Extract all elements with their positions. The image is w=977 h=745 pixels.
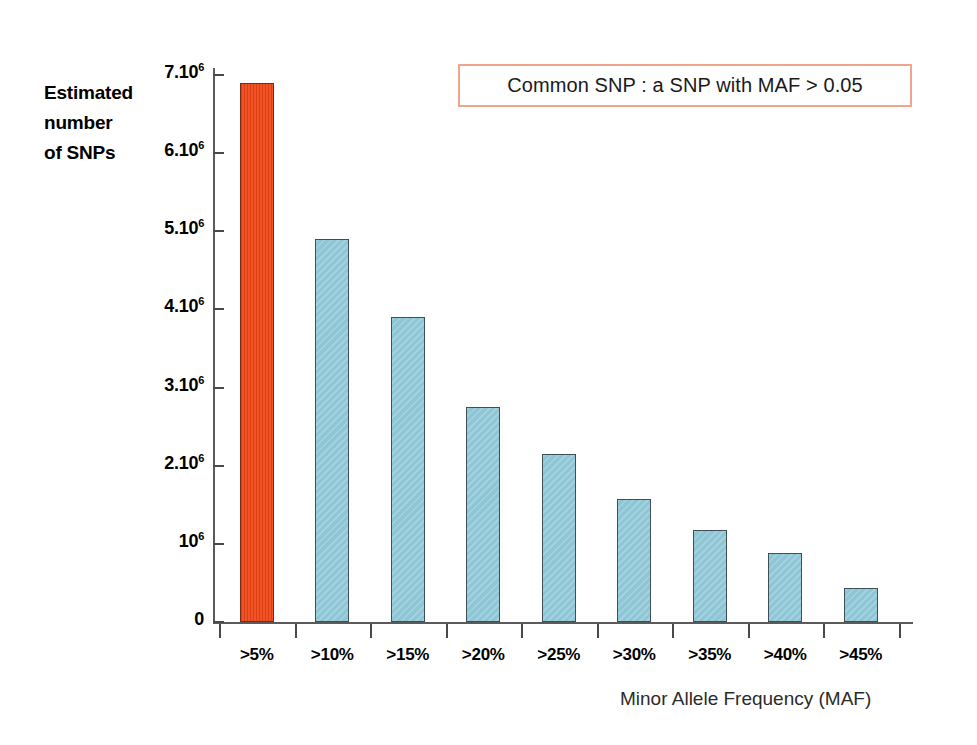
y-tick-3: 3.106 [213,387,224,389]
x-tick-0 [219,624,221,638]
y-tick-2: 2.106 [213,465,224,467]
y-axis-title: Estimated number of SNPs [44,78,174,168]
x-tick-8 [823,624,825,638]
y-tick-5: 5.106 [213,230,224,232]
y-tick-1: 106 [213,543,224,545]
bar-35 [693,530,727,622]
bar-10 [315,239,349,622]
x-tick-label-6: >35% [670,645,750,665]
bar-30 [617,499,651,622]
x-tick-1 [295,624,297,638]
x-tick-6 [672,624,674,638]
bar-20 [466,407,500,622]
x-tick-end [899,624,901,638]
y-axis-title-line-3: of SNPs [44,138,174,168]
y-tick-4: 4.106 [213,308,224,310]
y-tick-6: 6.106 [213,152,224,154]
x-tick-2 [370,624,372,638]
y-tick-label-2: 2.106 [164,453,204,474]
x-tick-label-4: >25% [519,645,599,665]
x-tick-label-2: >15% [368,645,448,665]
x-axis-title: Minor Allele Frequency (MAF) [620,688,871,710]
x-tick-label-8: >45% [821,645,901,665]
annotation-text: Common SNP : a SNP with MAF > 0.05 [507,74,863,97]
y-tick-label-7: 7.106 [164,62,204,83]
y-tick-label-1: 106 [179,531,204,552]
y-axis-title-line-1: Estimated [44,78,174,108]
x-tick-7 [748,624,750,638]
bar-45 [844,588,878,622]
x-tick-5 [597,624,599,638]
y-axis-title-line-2: number [44,108,174,138]
y-tick-7: 7.106 [213,74,224,76]
x-tick-label-1: >10% [292,645,372,665]
chart-figure: Estimated number of SNPs 01062.1063.1064… [0,0,977,745]
bar-5 [240,83,274,622]
bar-40 [768,553,802,622]
x-tick-3 [446,624,448,638]
annotation-box: Common SNP : a SNP with MAF > 0.05 [458,64,912,107]
y-tick-label-3: 3.106 [164,375,204,396]
y-tick-label-0: 0 [194,609,204,630]
x-tick-4 [521,624,523,638]
y-tick-label-4: 4.106 [164,296,204,317]
x-tick-label-3: >20% [443,645,523,665]
y-tick-0: 0 [213,621,224,623]
y-tick-label-6: 6.106 [164,140,204,161]
x-axis-line [213,622,913,624]
bar-25 [542,454,576,622]
x-tick-label-5: >30% [594,645,674,665]
x-tick-label-0: >5% [217,645,297,665]
bar-15 [391,317,425,622]
x-tick-label-7: >40% [745,645,825,665]
y-tick-label-5: 5.106 [164,218,204,239]
